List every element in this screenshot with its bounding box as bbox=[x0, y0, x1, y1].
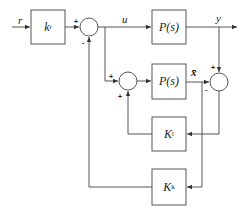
signal-xbar-label: x̄ bbox=[191, 67, 197, 78]
plant-top-label: P(s) bbox=[152, 10, 186, 44]
signal-u-label: u bbox=[122, 14, 128, 25]
plant-top-label-text: P(s) bbox=[159, 20, 179, 35]
xbar-to-kk-line bbox=[187, 82, 202, 187]
sum2-plus-bottom-sign: + bbox=[118, 93, 122, 100]
signal-r-label: r bbox=[18, 15, 22, 26]
plant-bottom-label-text: P(s) bbox=[159, 74, 179, 89]
kr-label-sub: r bbox=[49, 23, 51, 31]
sum1-minus-sign: - bbox=[82, 39, 84, 46]
kk-block-label: Kk bbox=[152, 169, 186, 205]
kl-to-sum2-line bbox=[128, 91, 152, 134]
sum1-plus-sign: + bbox=[74, 18, 78, 25]
plant-bottom-label: P(s) bbox=[152, 64, 186, 99]
signal-y-label: y bbox=[216, 13, 221, 24]
sum3-plus-top-sign: + bbox=[211, 64, 215, 71]
kk-label-main: K bbox=[163, 180, 171, 195]
sum3-minus-left-sign: - bbox=[205, 86, 207, 93]
kl-label-sub: l bbox=[172, 130, 174, 138]
summing-junction-1 bbox=[80, 18, 98, 36]
kr-block-label: kr bbox=[31, 10, 65, 44]
kl-block-label: Kl bbox=[152, 117, 186, 151]
kk-label-sub: k bbox=[171, 183, 175, 191]
summing-junction-3 bbox=[210, 73, 228, 91]
kl-label-main: K bbox=[164, 127, 172, 142]
summing-junction-2 bbox=[119, 72, 137, 90]
kk-to-sum1-line bbox=[89, 37, 152, 187]
sum3-to-kl-line bbox=[187, 91, 219, 134]
sum2-plus-left-sign: + bbox=[109, 73, 113, 80]
